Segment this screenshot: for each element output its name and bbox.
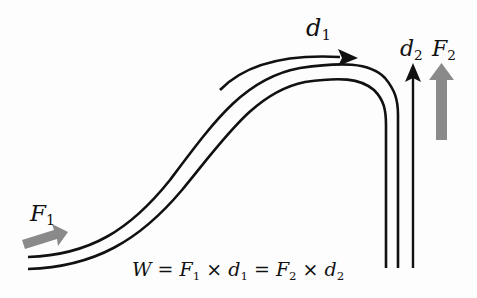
label-d1: d1 (306, 14, 331, 44)
eq-d1-base: d (228, 258, 240, 280)
eq-f2: F2 (276, 258, 297, 280)
eq-f2-base: F (276, 258, 289, 280)
work-equation: W = F1 × d1 = F2 × d2 (132, 258, 344, 283)
eq-f1-base: F (180, 258, 193, 280)
eq-times-1: × (200, 258, 228, 280)
eq-d2: d2 (325, 258, 345, 280)
f2-arrow-icon (429, 63, 454, 80)
label-f2: F2 (432, 36, 456, 63)
label-d2: d2 (400, 36, 423, 63)
track-upper-rail (28, 64, 398, 268)
eq-equals-2: = (248, 258, 276, 280)
eq-w: W (132, 258, 152, 280)
eq-d2-sub: 2 (337, 269, 345, 283)
f1-symbol: F (30, 200, 46, 226)
d1-symbol: d (306, 14, 321, 42)
d2-subscript: 2 (414, 47, 423, 63)
track-lower-rail (28, 79, 386, 269)
eq-d1: d1 (228, 258, 248, 280)
eq-f1: F1 (180, 258, 201, 280)
eq-d2-base: d (325, 258, 337, 280)
f2-arrow-shaft (436, 76, 447, 140)
d1-subscript: 1 (321, 26, 330, 44)
work-diagram: F1 d1 d2 F2 W = F1 × d1 = F2 × d2 (0, 0, 477, 298)
f2-subscript: 2 (447, 47, 456, 63)
f2-symbol: F (432, 36, 447, 61)
eq-times-2: × (297, 258, 325, 280)
d2-symbol: d (400, 36, 414, 61)
eq-f2-sub: 2 (289, 269, 297, 283)
eq-equals-1: = (152, 258, 180, 280)
eq-d1-sub: 1 (240, 269, 248, 283)
f1-subscript: 1 (46, 212, 55, 228)
label-f1: F1 (30, 200, 55, 228)
